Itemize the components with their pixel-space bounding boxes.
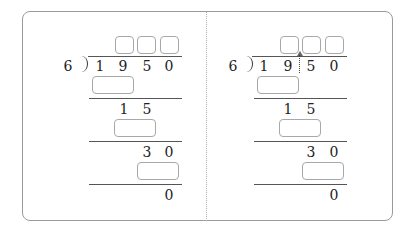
step1-remainder-digit: 5 xyxy=(306,102,316,116)
step2-rule xyxy=(254,141,347,142)
quotient-box-ones[interactable] xyxy=(325,36,344,54)
step2-remainder-digit: 0 xyxy=(329,145,339,159)
step2-answer-box[interactable] xyxy=(279,119,321,137)
step2-remainder-digit: 3 xyxy=(306,145,316,159)
step1-remainder-digit: 1 xyxy=(283,102,293,116)
split-marker-line xyxy=(299,55,300,73)
step3-rule xyxy=(254,184,347,185)
step1-rule xyxy=(254,98,347,99)
quotient-box-tens[interactable] xyxy=(302,36,321,54)
final-remainder-digit: 0 xyxy=(329,188,339,202)
right-panel: 6 1 9 5 0 1 5 3 0 0 xyxy=(0,0,200,231)
panel-divider xyxy=(206,12,207,221)
dividend-digit: 9 xyxy=(283,59,293,73)
dividend-digit: 1 xyxy=(259,59,269,73)
split-marker-arrow-icon xyxy=(297,51,303,56)
divisor: 6 xyxy=(228,59,238,73)
dividend-digit: 0 xyxy=(329,59,339,73)
dividend-digit: 5 xyxy=(306,59,316,73)
step1-answer-box[interactable] xyxy=(257,76,299,94)
step3-answer-box[interactable] xyxy=(302,162,344,180)
